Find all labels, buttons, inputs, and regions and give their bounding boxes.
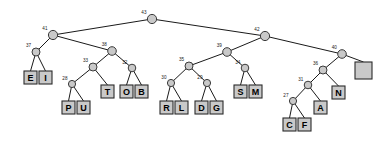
leaf-label: P [65,103,71,113]
leaf-node: T [101,85,114,98]
node-weight-label: 41 [42,26,48,31]
leaf-node: B [135,85,148,98]
huffman-tree-figure: EIPUTOBRLDGSMCFAN 4341423738394033323534… [0,0,382,145]
leaf-node: R [160,101,173,114]
node-weight-label: 43 [141,10,147,15]
leaf-node: F [298,118,311,131]
internal-node [338,50,347,59]
leaf-node: E [24,71,37,84]
leaf-node: S [234,85,247,98]
internal-node [32,48,40,56]
tree-edge [265,36,342,54]
node-weight-label: 28 [62,76,68,81]
node-weight-label: 36 [313,61,319,66]
internal-node [89,63,97,71]
internal-node [289,97,296,104]
leaf-label: D [198,103,205,113]
leaf-node: P [62,101,75,114]
internal-node [128,64,136,72]
leaf-node: L [175,101,188,114]
leaf-node: O [120,85,133,98]
leaf-label: U [80,103,87,113]
node-weight-label: 37 [26,43,32,48]
internal-node [185,62,193,70]
internal-node [223,48,232,57]
leaf-label: M [252,87,260,97]
node-weight-label: 29 [197,75,203,80]
leaf-label: G [213,103,220,113]
leaf-node: U [77,101,90,114]
leaf-node: M [249,85,262,98]
leaf-node [355,62,372,79]
internal-node [48,30,57,39]
node-weight-label: 39 [217,43,223,48]
internal-node [304,81,312,89]
internal-node [260,31,269,40]
leaf-node: D [195,101,208,114]
leaf-label: N [335,88,342,98]
leaf-node: N [332,86,345,99]
internal-node [241,64,249,72]
node-weight-label: 38 [102,42,108,47]
internal-node-layer [32,14,346,104]
leaf-label: B [138,87,145,97]
leaf-label: R [163,103,170,113]
internal-node [68,80,75,87]
leaf-node: I [39,71,52,84]
internal-node [108,47,117,56]
tree-edge [152,19,265,36]
internal-node [203,79,210,86]
tree-edge [53,19,152,35]
node-weight-label: 30 [161,75,167,80]
node-weight-label: 31 [298,77,304,82]
leaf-label: I [44,73,47,83]
leaf-node: A [314,101,327,114]
node-weight-label: 40 [332,45,338,50]
node-weight-label: 32 [122,60,128,65]
node-weight-label: 34 [235,60,241,65]
node-weight-label: 35 [179,57,185,62]
leaf-label: T [105,87,111,97]
node-weight-label: 27 [283,93,289,98]
tree-canvas: EIPUTOBRLDGSMCFAN 4341423738394033323534… [0,0,382,145]
internal-node [167,79,174,86]
leaf-box [355,62,372,79]
leaf-label: S [237,87,243,97]
leaf-label: C [286,120,293,130]
leaf-node: C [283,118,296,131]
tree-edge [227,36,265,52]
leaf-label: E [27,73,33,83]
leaf-label: A [317,103,324,113]
tree-edge [189,52,227,66]
leaf-label: O [123,87,130,97]
leaf-label: L [179,103,185,113]
internal-node [319,66,327,74]
internal-node [147,14,156,23]
node-weight-label: 42 [254,27,260,32]
node-weight-label: 33 [83,58,89,63]
leaf-label: F [302,120,308,130]
leaf-node: G [210,101,223,114]
